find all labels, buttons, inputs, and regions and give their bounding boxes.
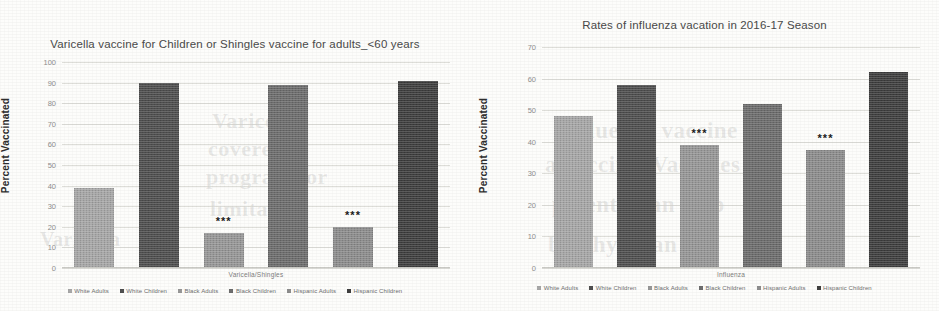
x-axis-line <box>62 267 450 268</box>
legend-item-label: Hispanic Adults <box>294 288 337 294</box>
significance-marker: *** <box>692 127 708 139</box>
legend-item-label: Black Children <box>236 288 276 294</box>
significance-marker: *** <box>216 215 232 227</box>
legend-item: White Adults <box>68 288 109 294</box>
legend-item-label: Black Adults <box>654 285 688 291</box>
legend-item: White Adults <box>537 285 578 291</box>
x-axis-label: Influenza <box>542 271 920 278</box>
legend-item: White Children <box>120 288 167 294</box>
legend-swatch-icon <box>589 286 593 290</box>
plot-area: 010203040506070 ****** Influenza <box>542 47 920 268</box>
y-axis-tick-label: 10 <box>528 232 536 241</box>
y-axis-tick-label: 50 <box>48 161 56 170</box>
y-axis-tick-label: 20 <box>48 222 56 231</box>
legend-swatch-icon <box>120 289 124 293</box>
y-axis-tick-label: 70 <box>528 43 536 52</box>
bar <box>139 83 179 268</box>
y-axis-tick-label: 30 <box>528 169 536 178</box>
bar <box>806 150 845 268</box>
legend-item-label: Hispanic Adults <box>763 285 806 291</box>
bar <box>554 116 593 268</box>
y-axis-tick-label: 100 <box>43 58 56 67</box>
legend-item-label: White Adults <box>74 288 109 294</box>
bar <box>333 227 373 268</box>
legend-item: Hispanic Adults <box>287 288 336 294</box>
bar <box>869 72 908 268</box>
x-axis-label: Varicella/Shingles <box>62 271 450 278</box>
x-axis-line <box>542 267 920 268</box>
bar-group: ****** <box>62 62 450 268</box>
y-axis-tick-label: 70 <box>48 119 56 128</box>
legend-swatch-icon <box>178 289 182 293</box>
y-axis-tick-label: 80 <box>48 99 56 108</box>
legend-item-label: Hispanic Children <box>354 288 403 294</box>
bar <box>680 145 719 268</box>
y-axis-tick-label: 0 <box>52 264 56 273</box>
legend-swatch-icon <box>699 286 703 290</box>
legend-item: Black Adults <box>178 288 218 294</box>
legend-item: Hispanic Children <box>347 288 402 294</box>
bar <box>74 188 114 268</box>
chart-title: Rates of influenza vacation in 2016-17 S… <box>470 19 939 31</box>
chart-legend: White AdultsWhite ChildrenBlack AdultsBl… <box>470 285 939 291</box>
legend-item: Black Adults <box>648 285 688 291</box>
y-axis-tick-label: 40 <box>48 181 56 190</box>
bar <box>268 85 308 268</box>
bar <box>743 104 782 268</box>
legend-swatch-icon <box>537 286 541 290</box>
gridline <box>62 268 450 269</box>
y-axis-tick-label: 10 <box>48 243 56 252</box>
significance-marker: *** <box>345 209 361 221</box>
legend-item-label: White Children <box>596 285 637 291</box>
legend-swatch-icon <box>817 286 821 290</box>
bar <box>204 233 244 268</box>
legend-swatch-icon <box>68 289 72 293</box>
legend-item-label: White Adults <box>544 285 579 291</box>
scanned-figure-page: Varicella Varicella covered program for … <box>0 0 939 311</box>
legend-item-label: Black Adults <box>185 288 219 294</box>
significance-marker: *** <box>818 132 834 144</box>
bar <box>617 85 656 268</box>
legend-swatch-icon <box>648 286 652 290</box>
legend-item-label: Hispanic Children <box>823 285 872 291</box>
y-axis-tick-label: 20 <box>528 200 536 209</box>
legend-item: Hispanic Children <box>817 285 872 291</box>
y-axis-tick-label: 60 <box>48 140 56 149</box>
bar <box>398 81 438 268</box>
legend-swatch-icon <box>229 289 233 293</box>
y-axis-tick-label: 40 <box>528 137 536 146</box>
chart-panel-influenza: Rates of influenza vacation in 2016-17 S… <box>470 0 939 311</box>
bar-group: ****** <box>542 47 920 268</box>
legend-item: Black Children <box>699 285 746 291</box>
gridline <box>542 268 920 269</box>
legend-item-label: Black Children <box>705 285 745 291</box>
y-axis-label: Percent Vaccinated <box>478 98 489 193</box>
plot-area: 0102030405060708090100 ****** Varicella/… <box>62 62 450 268</box>
legend-item: White Children <box>589 285 636 291</box>
legend-swatch-icon <box>287 289 291 293</box>
chart-legend: White AdultsWhite ChildrenBlack AdultsBl… <box>0 288 470 294</box>
y-axis-tick-label: 50 <box>528 106 536 115</box>
chart-panel-varicella-shingles: Varicella vaccine for Children or Shingl… <box>0 0 470 311</box>
y-axis-tick-label: 60 <box>528 74 536 83</box>
legend-item-label: White Children <box>126 288 167 294</box>
y-axis-label: Percent Vaccinated <box>0 98 11 193</box>
chart-title: Varicella vaccine for Children or Shingl… <box>0 38 470 50</box>
legend-item: Black Children <box>229 288 276 294</box>
y-axis-tick-label: 30 <box>48 202 56 211</box>
legend-swatch-icon <box>757 286 761 290</box>
y-axis-tick-label: 0 <box>532 264 536 273</box>
legend-swatch-icon <box>347 289 351 293</box>
y-axis-tick-label: 90 <box>48 78 56 87</box>
legend-item: Hispanic Adults <box>757 285 806 291</box>
